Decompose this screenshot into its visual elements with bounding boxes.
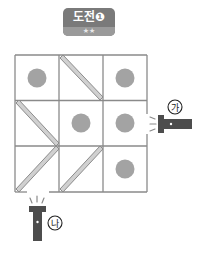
circle-r1c1 bbox=[72, 114, 91, 133]
circle-r0c0 bbox=[28, 69, 47, 88]
circle-r0c2 bbox=[116, 69, 135, 88]
circle-r1c2 bbox=[116, 114, 135, 133]
flashlight-na-body bbox=[33, 212, 42, 241]
mirror-r1c0 bbox=[16, 100, 59, 146]
label-ga: 가 bbox=[171, 103, 179, 113]
flashlight-ga: 가 bbox=[150, 100, 192, 133]
label-na: 나 bbox=[51, 219, 59, 229]
mirror-r2c0 bbox=[16, 146, 59, 192]
flashlight-na-head bbox=[29, 206, 46, 212]
flashlight-na: 나 bbox=[29, 196, 62, 241]
flashlight-ga-head bbox=[158, 115, 164, 133]
circle-r2c2 bbox=[116, 160, 135, 179]
mirror-r0c1 bbox=[60, 55, 103, 100]
mirror-r2c1 bbox=[60, 146, 103, 192]
flashlight-ga-body bbox=[164, 119, 192, 129]
mirror-puzzle-diagram: 가 나 bbox=[0, 0, 208, 258]
